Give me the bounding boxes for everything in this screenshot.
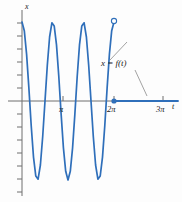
x-tick-label-2pi: 2π (107, 104, 116, 114)
closed-point-marker (111, 98, 116, 103)
y-axis-ticks-lower (17, 114, 22, 192)
curve-label: x = f(t) (101, 58, 127, 68)
x-axis-label: t (172, 102, 174, 111)
leader-line-to-zero-line (135, 70, 147, 96)
x-tick-label-pi: π (59, 104, 63, 114)
x-tick-label-3pi: 3π (156, 104, 165, 114)
function-graph-figure: x t π 2π 3π x = f(t) (0, 0, 182, 202)
open-point-marker (111, 18, 116, 23)
y-axis-label: x (25, 2, 29, 11)
y-axis-ticks-upper (17, 23, 22, 88)
plot-canvas (0, 0, 182, 202)
